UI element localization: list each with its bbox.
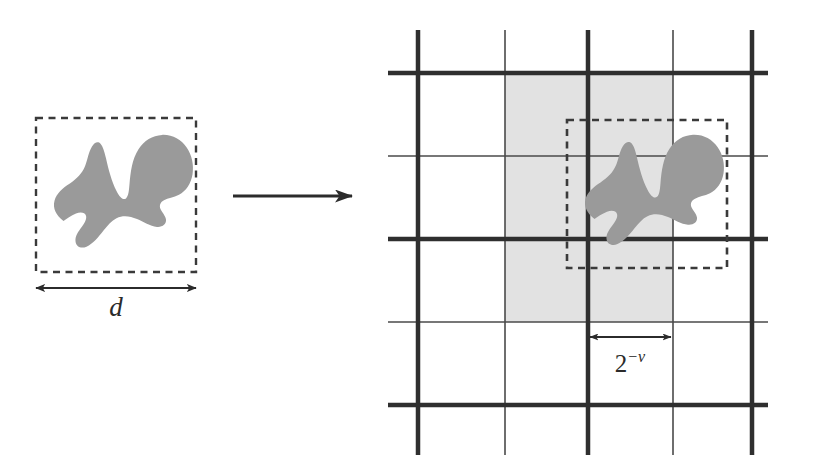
diameter-measure: d xyxy=(36,288,196,322)
dyadic-grid-panel: 2−ν xyxy=(388,30,768,455)
figure-root: d 2−ν xyxy=(0,0,833,474)
cell-size-label-exponent: −ν xyxy=(627,348,646,365)
source-blob xyxy=(54,135,193,248)
cell-size-label: 2−ν xyxy=(615,348,646,377)
source-set-panel: d xyxy=(36,118,196,322)
diameter-label: d xyxy=(109,292,123,322)
cell-size-measure: 2−ν xyxy=(590,337,671,377)
cell-size-label-base: 2 xyxy=(615,350,628,377)
figure-canvas: d 2−ν xyxy=(0,0,833,474)
